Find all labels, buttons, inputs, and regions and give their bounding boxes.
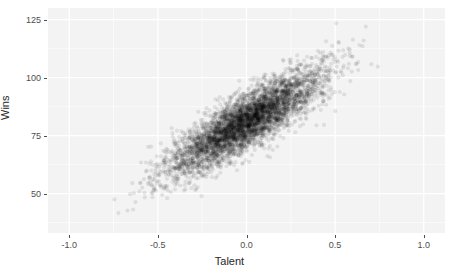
scatter-plot-figure: 1251007550 -1.0-0.50.00.51.0 Talent Wins <box>0 0 459 275</box>
x-tick-mark <box>69 235 70 238</box>
y-tick-mark <box>44 78 47 79</box>
y-tick-label: 50 <box>31 189 41 198</box>
gridlines <box>48 8 445 233</box>
x-tick-label: -0.5 <box>150 241 166 250</box>
x-tick-mark <box>247 235 248 238</box>
x-axis-title: Talent <box>0 256 459 267</box>
x-tick-mark <box>335 235 336 238</box>
y-tick-label: 125 <box>26 15 41 24</box>
y-tick-label: 75 <box>31 131 41 140</box>
y-tick-mark <box>44 194 47 195</box>
x-tick-label: 1.0 <box>417 241 430 250</box>
y-axis-title: Wins <box>0 96 11 120</box>
x-tick-label: 0.5 <box>329 241 342 250</box>
x-tick-mark <box>424 235 425 238</box>
y-tick-label: 100 <box>26 73 41 82</box>
x-tick-label: 0.0 <box>240 241 253 250</box>
x-tick-mark <box>158 235 159 238</box>
x-tick-label: -1.0 <box>62 241 78 250</box>
plot-panel <box>48 8 445 233</box>
y-tick-mark <box>44 136 47 137</box>
y-tick-mark <box>44 20 47 21</box>
